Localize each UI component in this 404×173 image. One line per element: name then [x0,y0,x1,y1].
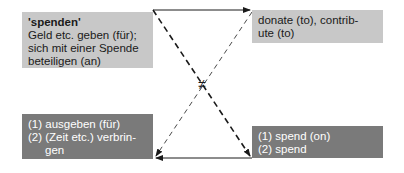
definition-line: (2) (Zeit etc.) verbrin- [28,131,147,144]
box-english-spend: (1) spend (on) (2) spend [252,126,383,158]
definition-line: sich mit einer Spende [28,42,147,55]
translation-line: (1) spend (on) [258,130,377,143]
translation-line: (2) spend [258,143,377,156]
definition-line: (1) ausgeben (für) [28,118,147,131]
box-english-donate: donate (to), contrib- ute (to) [252,10,383,43]
box-german-ausgeben: (1) ausgeben (für) (2) (Zeit etc.) verbr… [22,114,153,159]
not-equal-symbol: ≠ [198,76,206,92]
definition-line: gen [28,144,147,157]
translation-line: donate (to), contrib- [258,14,377,27]
term-title: 'spenden' [28,16,147,29]
definition-line: Geld etc. geben (für); [28,29,147,42]
translation-line: ute (to) [258,27,377,40]
definition-line: beteiligen (an) [28,55,147,68]
box-german-spenden: 'spenden' Geld etc. geben (für); sich mi… [22,12,153,68]
